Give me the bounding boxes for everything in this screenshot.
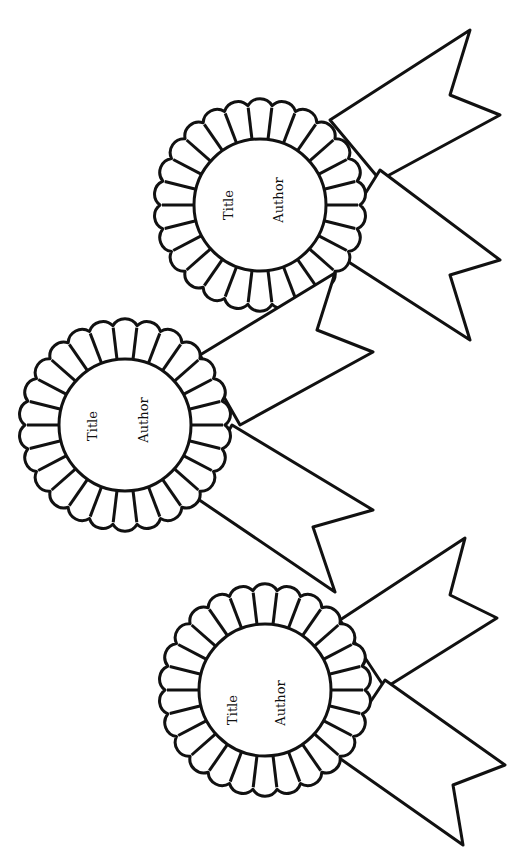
title-label: Title — [85, 411, 100, 441]
rosette-center-circle — [199, 624, 331, 756]
rosette-award-middle: TitleAuthor — [20, 273, 373, 592]
rosette-sheet: TitleAuthor TitleAuthor TitleAuthor — [0, 0, 530, 867]
author-label: Author — [273, 680, 288, 727]
title-label: Title — [225, 695, 240, 725]
author-label: Author — [271, 177, 286, 224]
rosette-center-circle — [194, 139, 326, 271]
author-label: Author — [136, 397, 151, 444]
ribbon-tail-upper — [330, 30, 500, 180]
title-label: Title — [221, 190, 236, 220]
rosette-center-circle — [59, 359, 191, 491]
